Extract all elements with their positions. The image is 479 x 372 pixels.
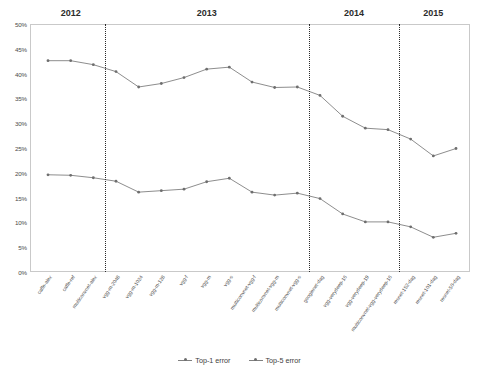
data-point-marker	[228, 177, 231, 180]
legend-label: Top-5 error	[266, 356, 301, 365]
data-point-marker	[409, 225, 412, 228]
data-point-marker	[47, 173, 50, 176]
data-point-marker	[432, 236, 435, 239]
y-axis-tick-label: 50%	[15, 21, 27, 28]
y-axis-tick-label: 10%	[15, 219, 27, 226]
data-point-marker	[160, 82, 163, 85]
x-axis-tick-label: vgg-m-1024	[123, 274, 143, 299]
series-overlay	[30, 24, 470, 272]
x-axis-tick-label: caffe-ref	[60, 274, 75, 292]
year-divider-line	[105, 24, 106, 272]
y-axis-tick-label: 25%	[15, 145, 27, 152]
x-axis-tick-label: resnet-50-dag	[438, 274, 461, 303]
x-axis-tick-label: vgg-f	[178, 274, 189, 287]
year-group-label: 2013	[197, 8, 217, 18]
x-axis-tick-label: vgg-m-2048	[101, 274, 121, 299]
y-axis: 50%45%40%35%30%25%20%15%10%5%0%	[0, 24, 30, 272]
data-point-marker	[341, 213, 344, 216]
data-point-marker	[160, 189, 163, 192]
legend-line-marker-icon	[178, 357, 192, 364]
data-point-marker	[387, 128, 390, 131]
data-point-marker	[409, 138, 412, 141]
y-axis-tick-label: 40%	[15, 70, 27, 77]
year-group-label: 2012	[61, 8, 81, 18]
data-point-marker	[205, 180, 208, 183]
x-axis-tick-label: resnet-101-dag	[414, 274, 438, 305]
data-point-marker	[115, 180, 118, 183]
data-point-marker	[273, 86, 276, 89]
data-point-marker	[137, 86, 140, 89]
y-axis-tick-label: 0%	[18, 269, 27, 276]
data-point-marker	[47, 59, 50, 62]
x-axis: caffe-alexcaffe-refmulticonvnet-alexvgg-…	[30, 272, 470, 340]
data-point-marker	[364, 127, 367, 130]
error-rate-chart: 50%45%40%35%30%25%20%15%10%5%0% 20122013…	[0, 0, 479, 372]
x-axis-tick-label: vgg-m	[199, 274, 212, 289]
x-axis-tick-label: resnet-152-dag	[391, 274, 415, 305]
x-axis-tick-label: vgg-s	[222, 274, 234, 287]
legend-entry[interactable]: Top-5 error	[249, 356, 301, 365]
data-point-marker	[387, 221, 390, 224]
legend-line-marker-icon	[249, 357, 263, 364]
data-point-marker	[319, 197, 322, 200]
data-point-marker	[92, 63, 95, 66]
x-axis-tick-label: vgg-m-128	[148, 274, 167, 297]
data-point-marker	[92, 176, 95, 179]
data-point-marker	[251, 81, 254, 84]
y-axis-tick-label: 45%	[15, 45, 27, 52]
y-axis-tick-label: 35%	[15, 95, 27, 102]
data-point-marker	[115, 70, 118, 73]
data-point-marker	[251, 191, 254, 194]
data-point-marker	[319, 94, 322, 97]
y-axis-tick-label: 20%	[15, 169, 27, 176]
data-point-marker	[205, 68, 208, 71]
year-group-label: 2015	[423, 8, 443, 18]
year-divider-line	[309, 24, 310, 272]
y-axis-tick-label: 15%	[15, 194, 27, 201]
data-point-marker	[69, 59, 72, 62]
data-point-marker	[296, 86, 299, 89]
data-point-marker	[455, 232, 458, 235]
data-point-marker	[69, 174, 72, 177]
series-line	[48, 175, 456, 238]
chart-legend: Top-1 errorTop-5 error	[0, 352, 479, 368]
y-axis-tick-label: 5%	[18, 244, 27, 251]
data-point-marker	[455, 147, 458, 150]
data-point-marker	[341, 115, 344, 118]
data-point-marker	[228, 66, 231, 69]
y-axis-tick-label: 30%	[15, 120, 27, 127]
data-point-marker	[137, 191, 140, 194]
data-point-marker	[432, 155, 435, 158]
x-axis-tick-label: caffe-alex	[36, 274, 53, 295]
data-point-marker	[273, 194, 276, 197]
x-axis-tick-label: multiconvnet-vgg-verydeep-16	[349, 274, 392, 332]
x-axis-tick-label: googlenet-dag	[302, 274, 325, 304]
data-point-marker	[183, 76, 186, 79]
legend-label: Top-1 error	[195, 356, 230, 365]
data-point-marker	[296, 192, 299, 195]
data-point-marker	[183, 188, 186, 191]
year-group-label: 2014	[344, 8, 364, 18]
series-line	[48, 61, 456, 156]
legend-entry[interactable]: Top-1 error	[178, 356, 230, 365]
x-axis-tick-label: multiconvnet-alex	[71, 274, 98, 309]
year-divider-line	[399, 24, 400, 272]
data-point-marker	[364, 221, 367, 224]
